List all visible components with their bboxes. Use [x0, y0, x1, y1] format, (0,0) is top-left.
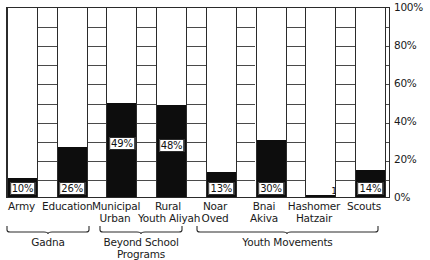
- gridline-20: [187, 161, 206, 162]
- gridline-90: [287, 27, 306, 28]
- bar-3: 48%: [157, 105, 186, 197]
- gridline-50: [336, 104, 355, 105]
- gridline-80: [38, 46, 57, 47]
- gridline-60: [386, 84, 389, 85]
- y-tick-100: 100%: [394, 2, 423, 13]
- category-label-line2: Youth Aliyah: [138, 213, 198, 225]
- gridline-50: [237, 104, 256, 105]
- category-label-hashomer-hatzair: Hashomer Hatzair: [285, 201, 343, 224]
- category-label-line2: Akiva: [245, 213, 283, 225]
- gridline-20: [237, 161, 256, 162]
- plot-area: 10% 26%: [6, 7, 390, 198]
- category-label-bnai-akiva: Bnai Akiva: [245, 201, 283, 224]
- grid-column-5: [287, 8, 306, 197]
- gridline-70: [386, 65, 389, 66]
- gridline-20: [287, 161, 306, 162]
- gridline-40: [336, 123, 355, 124]
- y-tick-60: 60%: [394, 78, 416, 89]
- y-tick-80: 80%: [394, 40, 416, 51]
- bar-slot-5: 30%: [256, 8, 287, 197]
- category-label-line1: Army: [0, 201, 43, 213]
- bar-slot-4: 13%: [206, 8, 237, 197]
- gridline-30: [336, 142, 355, 143]
- gridline-40: [187, 123, 206, 124]
- grid-column-0: [38, 8, 57, 197]
- gridline-50: [287, 104, 306, 105]
- group-brace-gadna: [6, 226, 90, 234]
- gridline-90: [386, 27, 389, 28]
- category-label-municipal-urban: Municipal Urban: [92, 201, 138, 224]
- category-label-noar-oved: Noar Oved: [196, 201, 234, 224]
- category-label-line1: Hashomer: [285, 201, 343, 213]
- category-label-line1: Bnai: [245, 201, 283, 213]
- y-tick-40: 40%: [394, 116, 416, 127]
- bar-value-label-0: 10%: [10, 182, 36, 195]
- category-label-line2: Oved: [196, 213, 234, 225]
- grid-column-6: [336, 8, 355, 197]
- category-label-line1: Rural: [138, 201, 198, 213]
- gridline-50: [137, 104, 156, 105]
- category-label-line2: Hatzair: [285, 213, 343, 225]
- gridline-30: [287, 142, 306, 143]
- gridline-80: [237, 46, 256, 47]
- group-label-line1: Gadna: [6, 236, 90, 248]
- category-label-scouts: Scouts: [342, 201, 386, 213]
- gridline-10: [88, 180, 107, 181]
- gridline-80: [88, 46, 107, 47]
- bar-value-label-2: 49%: [109, 137, 135, 150]
- gridline-70: [287, 65, 306, 66]
- gridline-20: [38, 161, 57, 162]
- grid-column-4: [237, 8, 256, 197]
- bar-slot-7: 14%: [355, 8, 386, 197]
- gridline-10: [38, 180, 57, 181]
- bar-value-label-7: 14%: [358, 182, 384, 195]
- group-label-line1: Beyond School: [89, 236, 193, 248]
- gridline-60: [336, 84, 355, 85]
- grid-column-1: [88, 8, 107, 197]
- bar-value-label-5: 30%: [258, 182, 284, 195]
- gridline-40: [137, 123, 156, 124]
- gridline-70: [38, 65, 57, 66]
- gridline-20: [336, 161, 355, 162]
- grid-column-7: [386, 8, 389, 197]
- bar-slot-2: 49%: [106, 8, 137, 197]
- gridline-10: [237, 180, 256, 181]
- bar-value-label-1: 26%: [59, 182, 85, 195]
- bar-5: 30%: [257, 140, 286, 197]
- gridline-20: [386, 161, 389, 162]
- gridline-70: [88, 65, 107, 66]
- bar-slot-1: 26%: [57, 8, 88, 197]
- gridline-30: [187, 142, 206, 143]
- grid-column-2: [137, 8, 156, 197]
- gridline-70: [336, 65, 355, 66]
- bar-2: 49%: [107, 103, 136, 197]
- bar-1: 26%: [58, 147, 87, 197]
- group-label-line2: Programs: [89, 248, 193, 260]
- bar-value-label-3: 48%: [159, 139, 185, 152]
- group-label-youth-movements: Youth Movements: [196, 236, 379, 248]
- gridline-20: [88, 161, 107, 162]
- gridline-10: [187, 180, 206, 181]
- gridline-80: [287, 46, 306, 47]
- gridline-90: [237, 27, 256, 28]
- bar-4: 13%: [207, 172, 236, 197]
- y-tick-20: 20%: [394, 154, 416, 165]
- bar-value-label-4: 13%: [208, 182, 234, 195]
- gridline-60: [237, 84, 256, 85]
- gridline-10: [287, 180, 306, 181]
- bar-slot-3: 48%: [156, 8, 187, 197]
- gridline-40: [88, 123, 107, 124]
- gridline-70: [237, 65, 256, 66]
- gridline-30: [38, 142, 57, 143]
- gridline-80: [137, 46, 156, 47]
- gridline-90: [38, 27, 57, 28]
- category-label-army: Army: [0, 201, 43, 213]
- category-label-line1: Scouts: [342, 201, 386, 213]
- gridline-30: [237, 142, 256, 143]
- bar-slot-6: 1%: [305, 8, 336, 197]
- gridline-90: [336, 27, 355, 28]
- category-label-education: Education: [42, 201, 88, 213]
- bar-6: 1%: [306, 195, 335, 197]
- gridline-30: [137, 142, 156, 143]
- gridline-90: [187, 27, 206, 28]
